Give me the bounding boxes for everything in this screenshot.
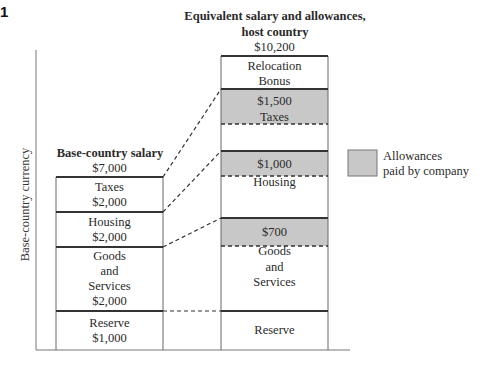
host-housing-label: Housing (221, 175, 328, 191)
connector-goods (163, 218, 221, 247)
base-goods-value: $2,000 (56, 294, 163, 310)
host-relocation-line1: Relocation (221, 59, 328, 75)
base-title: Base-country salary (40, 146, 180, 162)
host-goods-line1: Goods (221, 244, 328, 260)
y-axis-label: Base-country currency (18, 130, 33, 280)
base-taxes-label: Taxes (56, 180, 163, 196)
base-goods-line3: Services (56, 279, 163, 295)
base-reserve-value: $1,000 (56, 331, 163, 347)
base-housing-value: $2,000 (56, 230, 163, 246)
base-reserve-label: Reserve (56, 316, 163, 332)
base-taxes-value: $2,000 (56, 195, 163, 211)
host-taxes-allowance: $1,500 (221, 94, 328, 110)
host-goods-line3: Services (221, 275, 328, 291)
host-taxes-label: Taxes (221, 110, 328, 126)
connector-taxes (163, 89, 221, 177)
host-goods-line2: and (221, 260, 328, 276)
base-goods-line1: Goods (56, 249, 163, 265)
host-reserve-label: Reserve (221, 323, 328, 339)
host-total: $10,200 (221, 40, 328, 56)
legend-line2: paid by company (383, 164, 469, 179)
base-total: $7,000 (56, 161, 163, 177)
base-goods-line2: and (56, 264, 163, 280)
base-housing-label: Housing (56, 215, 163, 231)
host-goods-allowance: $700 (221, 225, 328, 241)
host-housing-allowance: $1,000 (221, 157, 328, 173)
legend-label: Allowances paid by company (383, 149, 469, 179)
host-title-line1: Equivalent salary and allowances, (180, 9, 370, 25)
host-relocation-line2: Bonus (221, 74, 328, 90)
legend-line1: Allowances (383, 149, 469, 164)
host-title-line2: host country (180, 25, 370, 41)
legend-swatch (348, 150, 377, 176)
